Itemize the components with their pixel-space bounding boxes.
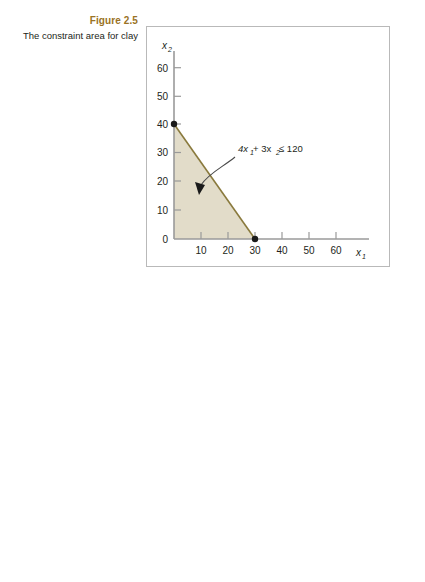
x-tick-label-20: 20 (222, 245, 234, 256)
constraint-equation-part3: ≤ 120 (279, 143, 303, 154)
y-axis-label-subscript: 2 (167, 46, 172, 53)
x-tick-label-50: 50 (303, 245, 315, 256)
y-tick-label-10: 10 (157, 205, 169, 216)
intercept-dot-y (171, 121, 177, 127)
y-tick-label-50: 50 (157, 91, 169, 102)
y-tick-label-20: 20 (157, 176, 169, 187)
y-tick-label-30: 30 (157, 147, 169, 158)
figure-caption-title: Figure 2.5 (6, 14, 138, 27)
x-axis-label-subscript: 1 (362, 253, 366, 260)
x-tick-label-30: 30 (249, 245, 261, 256)
figure-caption-2-5: Figure 2.5 The constraint area for clay (6, 14, 138, 42)
y-tick-label-60: 60 (157, 63, 169, 74)
x-tick-label-40: 40 (276, 245, 288, 256)
intercept-dot-x (252, 236, 258, 242)
figure-plot-frame-2-5: 60 50 40 30 20 10 0 10 20 30 40 50 60 x … (146, 26, 390, 267)
figure-caption-text: The constraint area for clay (6, 29, 138, 42)
y-tick-label-0: 0 (162, 234, 168, 245)
x-axis-label: x (355, 247, 362, 258)
constraint-equation-part1: 4x (238, 143, 249, 154)
x-tick-label-10: 10 (195, 245, 207, 256)
y-axis-label: x (161, 40, 168, 51)
y-tick-label-40: 40 (157, 119, 169, 130)
constraint-area-clay-chart: 60 50 40 30 20 10 0 10 20 30 40 50 60 x … (147, 27, 389, 266)
x-tick-label-60: 60 (330, 245, 342, 256)
constraint-equation-part2: + 3x (253, 143, 271, 154)
